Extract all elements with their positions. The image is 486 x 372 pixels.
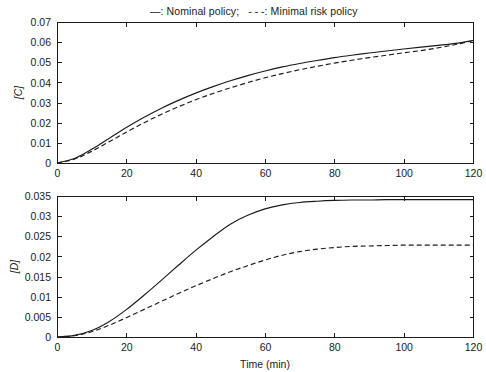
x-tick-label: 0 bbox=[55, 341, 61, 353]
y-tick-label: 0.02 bbox=[31, 251, 52, 263]
y-axis-title: [C] bbox=[12, 85, 24, 101]
x-tick-label: 120 bbox=[465, 167, 483, 179]
y-tick-label: 0.015 bbox=[25, 271, 51, 283]
y-tick-label: 0.025 bbox=[25, 230, 51, 242]
x-tick-label: 60 bbox=[260, 167, 272, 179]
y-tick-label: 0.035 bbox=[25, 190, 51, 202]
x-tick-label: 80 bbox=[329, 341, 341, 353]
x-axis-title: Time (min) bbox=[240, 358, 290, 370]
x-tick-label: 20 bbox=[121, 167, 133, 179]
x-tick-label: 20 bbox=[121, 341, 133, 353]
y-tick-label: 0.02 bbox=[31, 117, 52, 129]
x-tick-label: 100 bbox=[395, 341, 413, 353]
y-tick-label: 0.04 bbox=[31, 77, 52, 89]
y-tick-label: 0.005 bbox=[25, 311, 51, 323]
panel-concentration-c: 02040608010012000.010.020.030.040.050.06… bbox=[12, 16, 482, 179]
axes-frame bbox=[58, 197, 474, 338]
x-tick-label: 100 bbox=[395, 167, 413, 179]
x-tick-label: 80 bbox=[329, 167, 341, 179]
y-axis-title: [D] bbox=[8, 259, 20, 275]
x-tick-label: 40 bbox=[190, 341, 202, 353]
curve-minimal-risk-policy bbox=[57, 245, 473, 337]
curve-nominal-policy bbox=[57, 200, 473, 337]
y-tick-label: 0.06 bbox=[31, 36, 52, 48]
y-tick-label: 0.01 bbox=[31, 291, 52, 303]
curve-nominal-policy bbox=[57, 41, 473, 163]
x-tick-label: 60 bbox=[260, 341, 272, 353]
y-tick-label: 0.03 bbox=[31, 210, 52, 222]
plot-svg: 02040608010012000.010.020.030.040.050.06… bbox=[0, 0, 486, 372]
y-tick-label: 0.03 bbox=[31, 97, 52, 109]
y-tick-label: 0.05 bbox=[31, 56, 52, 68]
y-tick-label: 0.07 bbox=[31, 16, 52, 28]
curve-minimal-risk-policy bbox=[57, 41, 473, 163]
axes-frame bbox=[58, 23, 474, 164]
y-tick-label: 0.01 bbox=[31, 137, 52, 149]
y-tick-label: 0 bbox=[45, 331, 51, 343]
figure-canvas: —: Nominal policy; - - -: Minimal risk p… bbox=[0, 0, 486, 372]
x-tick-label: 120 bbox=[465, 341, 483, 353]
x-tick-label: 40 bbox=[190, 167, 202, 179]
x-tick-label: 0 bbox=[55, 167, 61, 179]
y-tick-label: 0 bbox=[45, 157, 51, 169]
panel-concentration-d: 02040608010012000.0050.010.0150.020.0250… bbox=[8, 190, 482, 370]
